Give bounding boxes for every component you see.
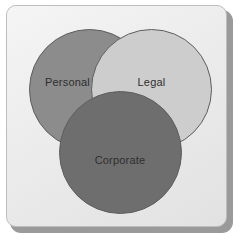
venn-label-legal: Legal [131,76,172,89]
diagram-canvas: Personal Legal Corporate [0,0,241,243]
venn-label-corporate: Corporate [87,154,153,167]
venn-label-personal: Personal [41,76,94,89]
venn-circle-corporate[interactable] [59,91,182,214]
venn-diagram: Personal Legal Corporate [0,0,241,243]
